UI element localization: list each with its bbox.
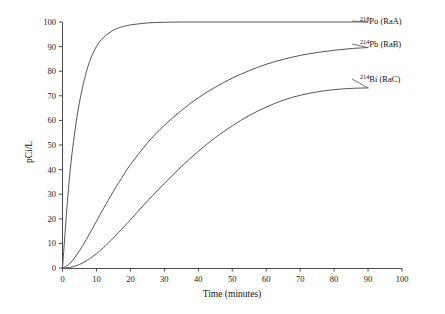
radon-progeny-ingrowth-chart: 0102030405060708090100 01020304050607080… xyxy=(0,0,445,314)
x-tick-label-70: 70 xyxy=(296,274,305,284)
y-axis-ticks xyxy=(59,22,63,268)
series-label-element-3: Bi (RaC) xyxy=(369,74,400,84)
x-axis-title: Time (minutes) xyxy=(203,289,262,300)
series-label-1: 218Po (RaA) xyxy=(360,15,402,26)
series-label-mass-number-2: 214 xyxy=(360,38,369,45)
series-label-3: 214Bi (RaC) xyxy=(360,73,400,84)
data-curves xyxy=(63,22,369,268)
series-label-mass-number-3: 214 xyxy=(360,73,369,80)
leader-line-3 xyxy=(352,79,368,88)
y-tick-label-30: 30 xyxy=(48,189,57,199)
y-tick-label-70: 70 xyxy=(48,91,57,101)
y-tick-label-100: 100 xyxy=(43,17,56,27)
y-axis-title: pCi/L xyxy=(24,141,34,163)
x-tick-label-40: 40 xyxy=(194,274,203,284)
y-axis-tick-labels: 0102030405060708090100 xyxy=(43,17,56,273)
series-label-element-2: Pb (RaB) xyxy=(369,39,401,49)
y-tick-label-20: 20 xyxy=(48,214,57,224)
x-tick-label-50: 50 xyxy=(228,274,237,284)
series-labels: 218Po (RaA)214Pb (RaB)214Bi (RaC) xyxy=(360,15,402,84)
x-tick-label-30: 30 xyxy=(160,274,169,284)
x-tick-label-0: 0 xyxy=(60,274,64,284)
curve-214bi-rac- xyxy=(63,88,369,268)
series-label-element-1: Po (RaA) xyxy=(369,16,402,26)
x-axis-tick-labels: 0102030405060708090100 xyxy=(60,274,408,284)
curve-218po-raa- xyxy=(63,22,369,268)
y-tick-label-90: 90 xyxy=(48,42,57,52)
y-tick-label-0: 0 xyxy=(52,263,56,273)
x-tick-label-60: 60 xyxy=(262,274,271,284)
chart-canvas: 0102030405060708090100 01020304050607080… xyxy=(0,0,445,314)
x-tick-label-80: 80 xyxy=(330,274,339,284)
y-tick-label-60: 60 xyxy=(48,115,57,125)
series-label-mass-number-1: 218 xyxy=(360,15,369,22)
curve-214pb-rab- xyxy=(63,48,369,268)
y-tick-label-10: 10 xyxy=(48,238,57,248)
x-tick-label-20: 20 xyxy=(126,274,135,284)
y-tick-label-40: 40 xyxy=(48,165,57,175)
x-tick-label-90: 90 xyxy=(364,274,373,284)
x-tick-label-100: 100 xyxy=(396,274,409,284)
x-tick-label-10: 10 xyxy=(92,274,101,284)
y-tick-label-80: 80 xyxy=(48,66,57,76)
plot-axes xyxy=(63,22,403,269)
y-tick-label-50: 50 xyxy=(48,140,57,150)
